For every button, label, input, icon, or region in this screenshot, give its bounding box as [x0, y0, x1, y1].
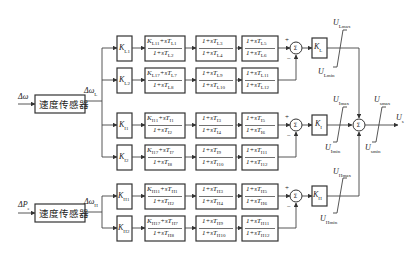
- tf2-row2-num: 1+sTL9: [202, 69, 222, 78]
- tf2-row6-num: 1+sTH9: [202, 217, 223, 226]
- svg-text:Σ: Σ: [294, 192, 298, 199]
- label-KL1: KL1: [119, 43, 130, 54]
- tf2-row3-num: 1+sTI3: [202, 114, 221, 123]
- label-KI: KI: [315, 119, 322, 130]
- label-Usmax: Usmax: [374, 95, 390, 106]
- tf1-row4-num: KI17+sTI7: [147, 146, 174, 155]
- label-Usmin: Usmin: [365, 143, 381, 154]
- svg-text:Σ: Σ: [294, 44, 298, 51]
- tf3-row1-den: 1+sTL6: [246, 49, 266, 58]
- tf2-row2-den: 1+sTL10: [202, 81, 225, 90]
- tf3-row6-den: 1+sTH12: [246, 229, 269, 238]
- tf3-row1-num: 1+sTL5: [246, 37, 266, 46]
- limiter-H: [333, 178, 347, 213]
- svg-text:Σ: Σ: [294, 121, 298, 128]
- tf2-row1-den: 1+sTL4: [202, 49, 222, 58]
- sign-minus-H: −: [287, 203, 291, 211]
- tf1-row3-num: KI11+sTI1: [147, 114, 174, 123]
- tf1-row5-den: 1+sTH2: [153, 197, 174, 206]
- delta-omega-L-label: ΔωL: [84, 86, 97, 97]
- input-delta-pe-label: ΔPe: [18, 200, 30, 211]
- label-Us-output: Us: [396, 113, 404, 124]
- tf1-row5-num: KH11+sTH1: [147, 185, 178, 194]
- tf2-row1-num: 1+sTL3: [202, 37, 222, 46]
- svg-text:Σ: Σ: [357, 121, 361, 128]
- tf3-row5-den: 1+sTH6: [246, 197, 267, 206]
- label-KL2: KL2: [119, 75, 130, 86]
- label-KH2: KH2: [118, 223, 129, 234]
- tf3-row3-num: 1+sTI5: [246, 114, 265, 123]
- tf3-row3-den: 1+sTI6: [246, 126, 265, 135]
- tf1-row3-den: 1+sTI2: [153, 126, 172, 135]
- limiter-I: [333, 107, 347, 142]
- label-UImin: UImin: [325, 143, 340, 154]
- tf3-row4-den: 1+sTI12: [246, 158, 268, 167]
- label-KL: KL: [314, 42, 322, 53]
- tf2-row5-den: 1+sTH4: [202, 197, 223, 206]
- input-delta-omega-label: Δω: [18, 92, 28, 101]
- tf2-row6-den: 1+sTH10: [202, 229, 225, 238]
- tf1-row4-den: 1+sTI8: [153, 158, 172, 167]
- tf3-row2-num: 1+sTL11: [246, 69, 269, 78]
- sign-plus-I: +: [285, 113, 289, 121]
- tf1-row1-den: 1+sTL2: [153, 49, 173, 58]
- limiter-L: [333, 30, 347, 67]
- sign-minus-I: −: [287, 132, 291, 140]
- tf1-row2-num: KL17+sTL7: [147, 69, 177, 78]
- label-KH1: KH1: [118, 191, 129, 202]
- sign-plus-H: +: [285, 184, 289, 192]
- label-UHmax: UHmax: [333, 167, 351, 178]
- delta-omega-H-label: ΔωH: [84, 197, 98, 208]
- tf1-row6-den: 1+sTH8: [153, 229, 174, 238]
- tf1-row1-num: KL11+sTL1: [147, 37, 176, 46]
- label-ULmin: ULmin: [318, 67, 335, 78]
- label-KI1: KI1: [119, 120, 129, 131]
- label-KH: KH: [313, 190, 322, 201]
- sign-minus-L: −: [287, 55, 291, 63]
- tf2-row4-num: 1+sTI9: [202, 146, 221, 155]
- tf3-row5-num: 1+sTH5: [246, 185, 267, 194]
- tf2-row3-den: 1+sTI4: [202, 126, 221, 135]
- tf2-row5-num: 1+sTH3: [202, 185, 223, 194]
- tf3-row6-num: 1+sTH11: [246, 217, 269, 226]
- tf2-row4-den: 1+sTI10: [202, 158, 224, 167]
- tf3-row4-num: 1+sTI11: [246, 146, 267, 155]
- sensor-label-2: 速度传感器: [39, 208, 89, 219]
- label-UImax: UImax: [333, 95, 349, 106]
- limiter-s: [372, 107, 386, 142]
- sign-plus-L: +: [285, 36, 289, 44]
- tf1-row2-den: 1+sTL8: [153, 81, 173, 90]
- tf3-row2-den: 1+sTL12: [246, 81, 269, 90]
- sensor-label-1: 速度传感器: [39, 99, 89, 110]
- label-UHmin: UHmin: [320, 214, 337, 225]
- label-KI2: KI2: [119, 152, 129, 163]
- label-ULmax: ULmax: [333, 18, 350, 29]
- tf1-row6-num: KH17+sTH7: [147, 217, 178, 226]
